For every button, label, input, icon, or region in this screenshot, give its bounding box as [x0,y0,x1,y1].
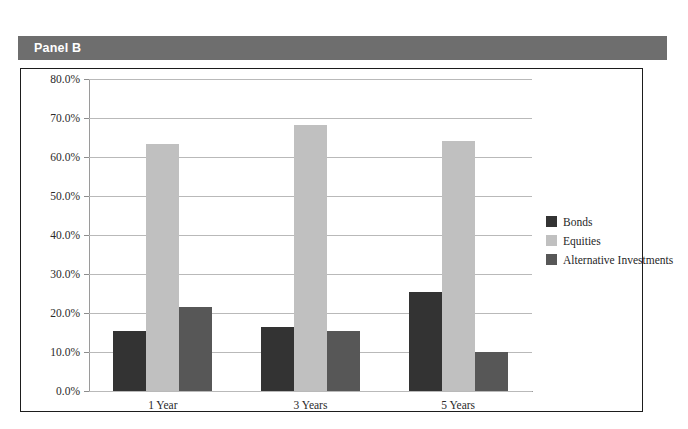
y-axis-label: 30.0% [50,268,80,280]
y-axis-label: 60.0% [50,151,80,163]
y-axis-label: 40.0% [50,229,80,241]
legend-swatch-icon [546,235,557,246]
bar-group [261,79,360,391]
legend-label: Equities [563,235,601,247]
gridline [89,391,532,392]
legend-label: Bonds [563,216,592,228]
legend-label: Alternative Investments [563,254,673,266]
legend-item[interactable]: Bonds [546,213,673,230]
bar-alternative-investments[interactable] [475,352,508,391]
y-axis-tick [84,313,89,314]
bar-equities[interactable] [294,125,327,391]
legend-item[interactable]: Equities [546,232,673,249]
plot-area: 0.0%10.0%20.0%30.0%40.0%50.0%60.0%70.0%8… [89,79,532,391]
bar-equities[interactable] [146,144,179,391]
chart-legend: BondsEquitiesAlternative Investments [546,213,673,270]
y-axis-tick [84,118,89,119]
y-axis-tick [84,352,89,353]
bar-alternative-investments[interactable] [327,331,360,391]
panel-title: Panel B [18,41,81,55]
y-axis-label: 20.0% [50,307,80,319]
bar-equities[interactable] [442,141,475,391]
y-axis-tick [84,235,89,236]
legend-swatch-icon [546,254,557,265]
legend-swatch-icon [546,216,557,227]
bar-bonds[interactable] [261,327,294,391]
x-axis-label: 5 Years [441,399,475,411]
y-axis-tick [84,274,89,275]
y-axis-tick [84,391,89,392]
x-axis-label: 3 Years [294,399,328,411]
bar-alternative-investments[interactable] [179,307,212,391]
y-axis-tick [84,79,89,80]
bar-bonds[interactable] [409,292,442,391]
y-axis-label: 50.0% [50,190,80,202]
legend-item[interactable]: Alternative Investments [546,251,673,268]
x-axis-label: 1 Year [148,399,177,411]
bar-group [113,79,212,391]
chart-frame: 0.0%10.0%20.0%30.0%40.0%50.0%60.0%70.0%8… [20,68,643,412]
bar-bonds[interactable] [113,331,146,391]
y-axis-label: 70.0% [50,112,80,124]
y-axis-label: 80.0% [50,73,80,85]
panel-header-bar: Panel B [18,36,667,60]
y-axis-tick [84,196,89,197]
bar-group [409,79,508,391]
y-axis-label: 0.0% [56,385,80,397]
y-axis-label: 10.0% [50,346,80,358]
y-axis-tick [84,157,89,158]
